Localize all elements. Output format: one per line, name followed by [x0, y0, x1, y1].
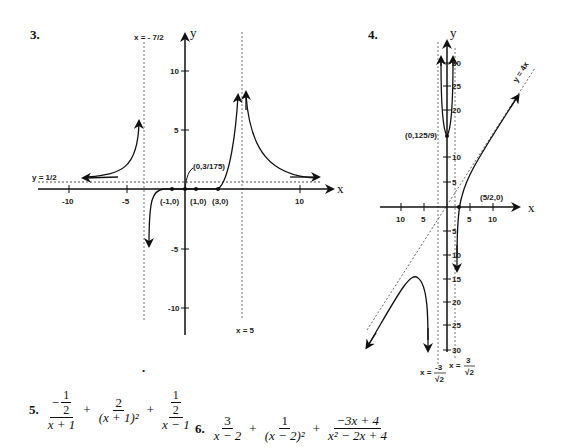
- svg-text:25: 25: [452, 321, 461, 330]
- answer-6-term-3: −3x + 4 x² − 2x + 4: [326, 414, 389, 443]
- answer-5: 5. − 1 2 x + 1 + 2 (x + 1)² + 1 2 x − 1: [29, 388, 195, 432]
- graph-problem-4: y x y = 4x (0,125/9) (5/2,0) 10 5 5 10 3…: [0, 0, 568, 447]
- svg-text:x: x: [528, 200, 535, 215]
- svg-text:-3: -3: [435, 363, 443, 372]
- svg-text:x =: x =: [420, 368, 432, 377]
- svg-text:20: 20: [452, 106, 461, 115]
- svg-text:(5/2,0): (5/2,0): [480, 193, 503, 202]
- svg-text:√2: √2: [435, 375, 444, 384]
- svg-text:y = 4x: y = 4x: [511, 60, 531, 84]
- svg-text:x =: x =: [449, 361, 461, 370]
- svg-text:30: 30: [452, 346, 461, 355]
- svg-text:√2: √2: [465, 368, 474, 377]
- svg-text:10: 10: [452, 251, 461, 260]
- svg-text:5: 5: [467, 215, 472, 224]
- svg-text:25: 25: [452, 82, 461, 91]
- svg-text:10: 10: [396, 215, 405, 224]
- answer-5-term-3: 1 2 x − 1: [160, 388, 192, 432]
- stray-mark: •: [142, 366, 145, 376]
- answer-6: 6. 3 x − 2 + 1 (x − 2)² + −3x + 4 x² − 2…: [195, 414, 392, 443]
- answer-6-term-2: 1 (x − 2)²: [263, 414, 307, 443]
- svg-text:5: 5: [452, 178, 457, 187]
- svg-text:20: 20: [452, 298, 461, 307]
- answer-6-term-1: 3 x − 2: [212, 414, 244, 443]
- answer-5-term-2: 2 (x + 1)²: [97, 396, 141, 425]
- svg-text:15: 15: [452, 275, 461, 284]
- svg-text:30: 30: [452, 59, 461, 68]
- svg-text:y: y: [450, 25, 457, 40]
- svg-text:(0,125/9): (0,125/9): [405, 131, 437, 140]
- svg-text:3: 3: [466, 356, 471, 365]
- answer-5-term-1: − 1 2 x + 1: [46, 388, 78, 432]
- svg-text:10: 10: [452, 153, 461, 162]
- svg-text:10: 10: [488, 215, 497, 224]
- svg-text:5: 5: [452, 227, 457, 236]
- svg-text:5: 5: [421, 215, 426, 224]
